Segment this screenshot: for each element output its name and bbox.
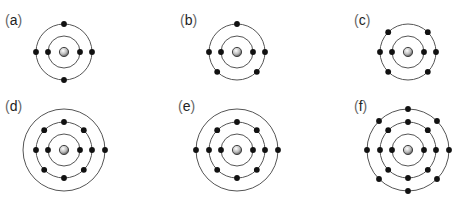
electron-dot	[262, 49, 268, 55]
electron-dot	[234, 175, 240, 181]
panel-label: (b)	[180, 12, 197, 28]
nucleus-icon	[59, 145, 68, 154]
panel-label: (d)	[5, 98, 22, 114]
electron-dot	[81, 167, 87, 173]
electron-dot	[81, 127, 87, 133]
electron-dot	[61, 119, 67, 125]
electron-dot	[41, 167, 47, 173]
electron-dot	[425, 69, 431, 75]
electron-dot	[254, 69, 260, 75]
electron-dot	[254, 127, 260, 133]
electron-dot	[254, 167, 260, 173]
electron-dot	[385, 69, 391, 75]
nucleus-icon	[403, 47, 412, 56]
atom-panel-a: (a)	[5, 12, 95, 83]
electron-dot	[250, 147, 256, 153]
electron-dot	[275, 147, 281, 153]
electron-dot	[206, 147, 212, 153]
electron-dot	[234, 21, 240, 27]
atom-panel-d: (d)	[5, 98, 108, 191]
nucleus-icon	[232, 145, 241, 154]
electron-dot	[193, 147, 199, 153]
electron-dot	[61, 21, 67, 27]
electron-dot	[218, 147, 224, 153]
electron-dot	[45, 147, 51, 153]
atomic-shell-diagram: (a)(b)(c)(d)(e)(f)	[0, 0, 462, 205]
electron-dot	[405, 175, 411, 181]
electron-dot	[425, 127, 431, 133]
electron-dot	[405, 119, 411, 125]
electron-dot	[421, 147, 427, 153]
electron-dot	[405, 106, 411, 112]
electron-dot	[218, 49, 224, 55]
nucleus-icon	[232, 47, 241, 56]
electron-dot	[376, 176, 382, 182]
panel-label: (a)	[5, 12, 22, 28]
electron-dot	[33, 49, 39, 55]
atom-panel-e: (e)	[178, 98, 281, 191]
atom-panel-b: (b)	[180, 12, 268, 80]
electron-dot	[389, 49, 395, 55]
electron-dot	[421, 49, 427, 55]
electron-dot	[214, 167, 220, 173]
nucleus-icon	[59, 47, 68, 56]
electron-dot	[433, 49, 439, 55]
nucleus-icon	[403, 145, 412, 154]
electron-dot	[234, 119, 240, 125]
electron-dot	[89, 147, 95, 153]
panel-label: (c)	[354, 12, 370, 28]
electron-dot	[434, 176, 440, 182]
atom-panel-c: (c)	[354, 12, 439, 80]
electron-dot	[434, 118, 440, 124]
electron-dot	[385, 167, 391, 173]
electron-dot	[425, 29, 431, 35]
electron-dot	[425, 167, 431, 173]
electron-dot	[33, 147, 39, 153]
electron-dot	[61, 175, 67, 181]
electron-dot	[446, 147, 452, 153]
electron-dot	[376, 118, 382, 124]
electron-dot	[405, 188, 411, 194]
electron-dot	[262, 147, 268, 153]
electron-dot	[214, 69, 220, 75]
electron-dot	[102, 147, 108, 153]
electron-dot	[377, 147, 383, 153]
electron-dot	[385, 29, 391, 35]
electron-dot	[364, 147, 370, 153]
atom-panel-f: (f)	[354, 98, 452, 194]
electron-dot	[377, 49, 383, 55]
electron-dot	[89, 49, 95, 55]
electron-dot	[206, 49, 212, 55]
electron-dot	[433, 147, 439, 153]
electron-dot	[389, 147, 395, 153]
panel-label: (e)	[178, 98, 195, 114]
electron-dot	[250, 49, 256, 55]
electron-dot	[214, 127, 220, 133]
electron-dot	[41, 127, 47, 133]
electron-dot	[385, 127, 391, 133]
panel-label: (f)	[354, 98, 367, 114]
electron-dot	[77, 49, 83, 55]
electron-dot	[77, 147, 83, 153]
electron-dot	[45, 49, 51, 55]
electron-dot	[61, 77, 67, 83]
